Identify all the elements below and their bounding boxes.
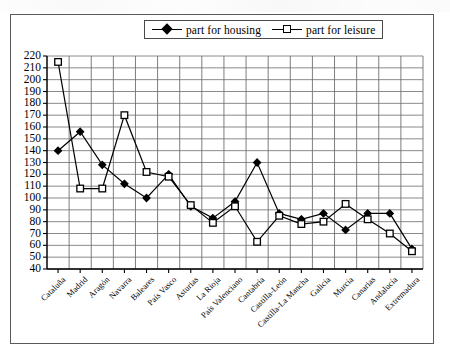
y-axis-tick-200: 200: [15, 74, 41, 86]
scan-artifact: [0, 0, 450, 12]
y-axis-tick-120: 120: [15, 168, 41, 180]
y-axis-tick-40: 40: [15, 263, 41, 275]
y-axis-tick-150: 150: [15, 133, 41, 145]
chart-frame: part for housing part for leisure 220210…: [10, 14, 434, 344]
y-axis-tick-180: 180: [15, 97, 41, 109]
y-axis-tick-90: 90: [15, 204, 41, 216]
y-axis-tick-210: 210: [15, 62, 41, 74]
y-axis-tick-140: 140: [15, 145, 41, 157]
y-axis-tick-100: 100: [15, 192, 41, 204]
y-axis-tick-60: 60: [15, 239, 41, 251]
y-axis-tick-190: 190: [15, 86, 41, 98]
plot-area: 2202102001901801701601501401301201101009…: [11, 15, 435, 345]
chart-screenshot: part for housing part for leisure 220210…: [0, 0, 450, 359]
y-axis-tick-70: 70: [15, 228, 41, 240]
y-axis-tick-80: 80: [15, 216, 41, 228]
y-axis-tick-170: 170: [15, 109, 41, 121]
y-axis-tick-130: 130: [15, 157, 41, 169]
y-axis-tick-220: 220: [15, 50, 41, 62]
y-axis-tick-110: 110: [15, 180, 41, 192]
y-axis-tick-50: 50: [15, 251, 41, 263]
y-axis-tick-160: 160: [15, 121, 41, 133]
